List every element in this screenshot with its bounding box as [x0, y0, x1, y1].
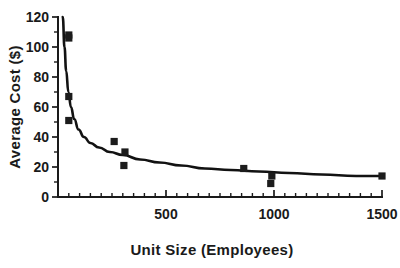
data-point-marker: [65, 93, 72, 100]
y-tick-label: 20: [33, 159, 49, 175]
x-tick-label: 1000: [258, 206, 289, 222]
data-point-marker: [240, 165, 247, 172]
y-tick-label: 40: [33, 129, 49, 145]
average-cost-vs-unit-size-chart: 020406080100120 50010001500 Unit Size (E…: [0, 0, 400, 268]
data-point-marker: [378, 172, 385, 179]
fit-curve: [63, 17, 382, 176]
y-tick-label: 100: [26, 39, 50, 55]
y-axis-tick-labels: 020406080100120: [26, 9, 50, 205]
data-point-marker: [111, 138, 118, 145]
data-point-marker: [267, 180, 274, 187]
y-tick-label: 120: [26, 9, 50, 25]
x-tick-label: 1500: [366, 206, 397, 222]
y-tick-label: 80: [33, 69, 49, 85]
data-point-marker: [65, 34, 72, 41]
x-axis-tick-labels: 50010001500: [154, 206, 397, 222]
y-tick-label: 0: [41, 189, 49, 205]
data-point-marker: [121, 148, 128, 155]
y-axis-title: Average Cost ($): [6, 45, 23, 168]
x-tick-label: 500: [154, 206, 178, 222]
x-axis-ticks: [69, 190, 382, 197]
data-point-marker: [268, 172, 275, 179]
data-point-marker: [120, 162, 127, 169]
y-tick-label: 60: [33, 99, 49, 115]
data-point-marker: [65, 117, 72, 124]
data-point-markers: [65, 31, 385, 187]
x-axis-title: Unit Size (Employees): [130, 241, 293, 258]
